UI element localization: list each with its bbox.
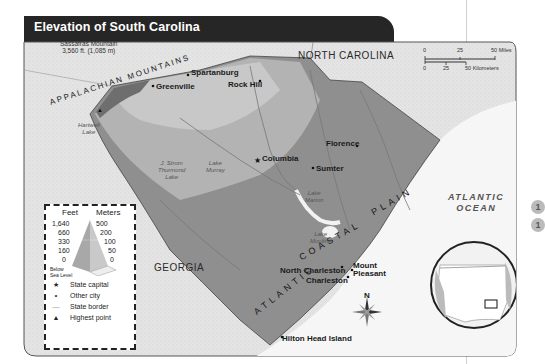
- lake-moultrie-label: Lake Moultrie: [310, 231, 331, 245]
- city-sumter: Sumter: [316, 164, 344, 173]
- highest-point-label: Sassafras Mountain 3,560 ft. (1,085 m): [60, 40, 117, 54]
- triangle-icon: ▲: [50, 314, 62, 321]
- north-carolina-label-1: NORTH: [298, 50, 336, 61]
- legend-meters-500: 500: [96, 220, 108, 227]
- legend-meters-200: 200: [100, 229, 112, 236]
- lake-murray-label: Lake Murray: [206, 160, 225, 174]
- city-mount-pleasant: Mount Pleasant: [353, 262, 386, 278]
- city-charleston: Charleston: [306, 276, 348, 285]
- scale-km-50: 50 Kilometers: [465, 65, 499, 71]
- legend: Feet Meters 1,640 660 330 160 0 500 200 …: [44, 204, 136, 350]
- line-icon: —: [50, 303, 62, 310]
- legend-feet-1640: 1,640: [52, 220, 70, 227]
- city-columbia-capital: Columbia: [262, 154, 298, 163]
- legend-feet-0: 0: [62, 256, 66, 263]
- city-north-charleston: North Charleston: [280, 266, 345, 275]
- hartwell-lake-label: Hartwell Lake: [78, 122, 100, 136]
- svg-text:★: ★: [254, 156, 261, 165]
- scale-km-25: 25: [443, 65, 449, 71]
- legend-meters-50: 50: [108, 247, 116, 254]
- legend-feet-160: 160: [58, 247, 70, 254]
- ocean-label: ATLANTIC OCEAN: [448, 192, 504, 214]
- legend-feet-330: 330: [58, 238, 70, 245]
- city-greenville: Greenville: [156, 82, 195, 91]
- locator-globe: [431, 242, 517, 328]
- georgia-label: GEORGIA: [154, 262, 204, 273]
- city-hilton-head-island: Hilton Head Island: [282, 334, 352, 343]
- legend-below-sea-level: Below Sea Level: [50, 267, 72, 278]
- legend-feet-660: 660: [58, 229, 70, 236]
- legend-item-state-border: —State border: [50, 303, 109, 310]
- side-badge-1: 1: [531, 200, 545, 214]
- legend-item-highest-point: ▲Highest point: [50, 314, 111, 321]
- compass-north-label: N: [364, 291, 370, 300]
- city-spartanburg: Spartanburg: [191, 68, 239, 77]
- star-icon: ★: [50, 281, 62, 289]
- legend-meters-100: 100: [104, 238, 116, 245]
- scale-miles-50: 50 Miles: [491, 47, 511, 53]
- city-florence: Florence: [326, 139, 359, 148]
- thurmond-lake-label: J. Strom Thurmond Lake: [158, 160, 185, 181]
- scale-miles-0: 0: [423, 47, 426, 53]
- north-carolina-label-2: CAROLINA: [339, 50, 394, 61]
- legend-meters-0: 0: [110, 256, 114, 263]
- side-badge-2: 1: [531, 218, 545, 232]
- dot-icon: •: [50, 292, 62, 299]
- city-rock-hill: Rock Hill: [228, 80, 262, 89]
- svg-text:▲: ▲: [97, 107, 103, 113]
- legend-item-state-capital: ★State capital: [50, 281, 109, 289]
- legend-item-other-city: •Other city: [50, 292, 100, 299]
- scale-km-0: 0: [423, 65, 426, 71]
- lake-marion-label: Lake Marion: [305, 190, 323, 204]
- scale-miles-25: 25: [457, 47, 463, 53]
